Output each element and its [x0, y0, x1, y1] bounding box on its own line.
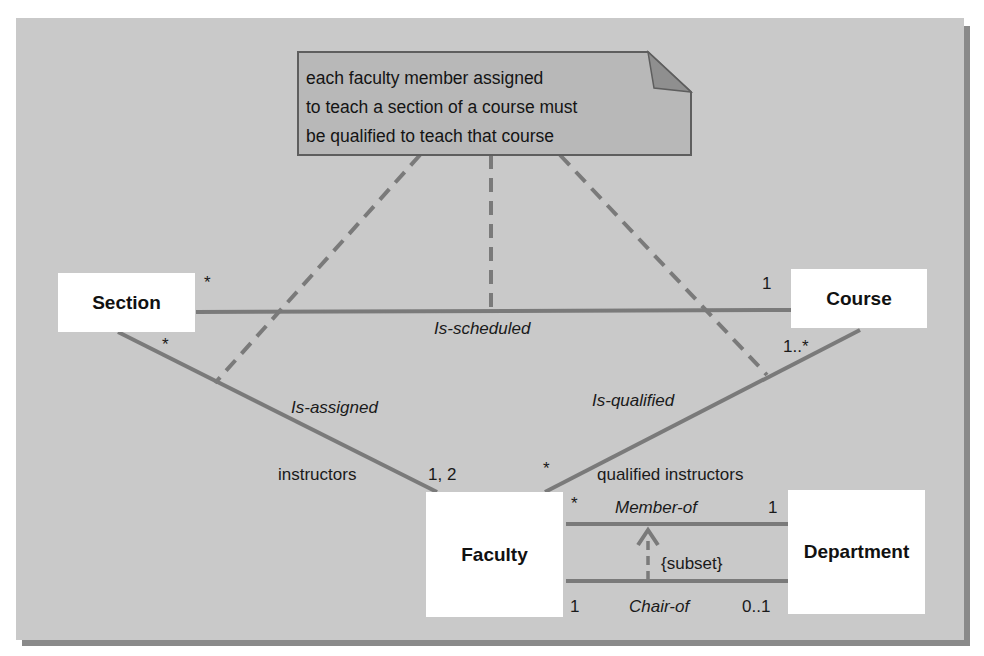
- is-assigned-mult-faculty: 1, 2: [428, 465, 456, 485]
- member-of-name: Member-of: [615, 498, 697, 518]
- is-qualified-mult-course: 1..*: [783, 337, 809, 357]
- class-department-label: Department: [804, 541, 910, 563]
- chair-of-name: Chair-of: [629, 597, 689, 617]
- is-qualified-name: Is-qualified: [592, 391, 674, 411]
- is-assigned-name: Is-assigned: [291, 398, 378, 418]
- note-anchor-qualified: [560, 155, 767, 375]
- is-scheduled-mult-course: 1: [762, 274, 771, 294]
- is-qualified-role-faculty: qualified instructors: [597, 465, 743, 485]
- is-assigned-mult-section: *: [162, 335, 169, 355]
- note-line-3: be qualified to teach that course: [306, 122, 666, 151]
- constraint-note: each faculty member assigned to teach a …: [306, 64, 666, 151]
- class-department[interactable]: Department: [788, 490, 925, 614]
- chair-of-mult-faculty: 1: [570, 597, 579, 617]
- note-line-2: to teach a section of a course must: [306, 93, 666, 122]
- note-anchor-assigned: [215, 155, 420, 383]
- class-course[interactable]: Course: [791, 269, 927, 328]
- class-faculty-label: Faculty: [461, 544, 528, 566]
- member-of-mult-faculty: *: [571, 494, 578, 514]
- chair-of-mult-department: 0..1: [742, 597, 770, 617]
- is-assigned-role-faculty: instructors: [278, 465, 356, 485]
- is-qualified-mult-faculty: *: [543, 459, 550, 479]
- is-scheduled-line: [196, 310, 792, 312]
- is-scheduled-name: Is-scheduled: [434, 319, 530, 339]
- class-section-label: Section: [92, 292, 161, 314]
- class-course-label: Course: [826, 288, 891, 310]
- note-line-1: each faculty member assigned: [306, 64, 666, 93]
- subset-constraint: {subset}: [661, 554, 722, 574]
- is-scheduled-mult-section: *: [204, 273, 211, 293]
- class-faculty[interactable]: Faculty: [426, 492, 563, 617]
- class-section[interactable]: Section: [58, 273, 195, 332]
- member-of-mult-department: 1: [768, 498, 777, 518]
